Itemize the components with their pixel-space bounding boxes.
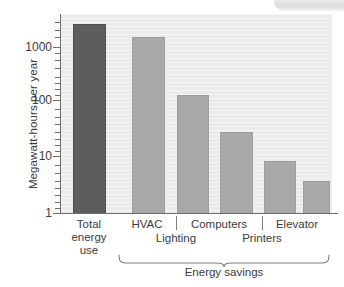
y-minor-tick	[55, 89, 61, 90]
y-minor-tick	[55, 132, 61, 133]
x-label-total-line2: energy	[58, 231, 120, 244]
x-label-total-energy-use: Total energy use	[58, 218, 120, 257]
y-tick-label-1000: 1000	[25, 40, 52, 54]
y-minor-tick	[55, 109, 61, 110]
y-tick-label-1: 1	[45, 206, 52, 220]
bar-computers	[220, 132, 253, 214]
y-minor-tick	[55, 195, 61, 196]
y-minor-tick	[55, 139, 61, 140]
x-label-total-line3: use	[58, 244, 120, 257]
y-minor-tick	[55, 83, 61, 84]
y-minor-tick	[55, 145, 61, 146]
x-axis-line	[56, 213, 338, 214]
y-tick-100	[53, 100, 61, 101]
y-minor-tick	[55, 188, 61, 189]
y-minor-tick	[55, 124, 61, 125]
bar-hvac	[132, 37, 165, 215]
bar-total-energy-use	[73, 24, 106, 214]
y-axis-title: Megawatt-hours per year	[27, 29, 39, 219]
y-minor-tick	[55, 202, 61, 203]
plot-area	[61, 14, 332, 214]
x-label-total-line1: Total	[58, 218, 120, 231]
y-minor-tick	[55, 60, 61, 61]
y-minor-tick	[55, 22, 61, 23]
y-minor-tick	[55, 68, 61, 69]
x-label-printers: Printers	[230, 232, 294, 245]
y-minor-tick	[55, 37, 61, 38]
x-label-lighting: Lighting	[147, 232, 205, 245]
y-minor-tick	[55, 117, 61, 118]
y-minor-tick	[55, 151, 61, 152]
y-minor-tick	[55, 30, 61, 31]
y-minor-tick	[55, 53, 61, 54]
y-tick-1000	[53, 47, 61, 48]
y-tick-10	[53, 156, 61, 157]
energy-bar-chart: Megawatt-hours per year 1000 1	[0, 0, 344, 287]
y-axis-line	[60, 14, 61, 214]
bar-elevator	[303, 181, 330, 214]
y-minor-tick	[55, 165, 61, 166]
y-minor-tick	[55, 77, 61, 78]
bar-lighting	[177, 95, 209, 214]
x-label-hvac: HVAC	[118, 218, 176, 231]
y-minor-tick	[55, 95, 61, 96]
y-minor-tick	[55, 173, 61, 174]
energy-savings-brace	[118, 253, 330, 266]
x-label-elevator: Elevator	[262, 218, 332, 231]
y-tick-label-100: 100	[32, 93, 52, 107]
y-tick-label-10: 10	[39, 149, 52, 163]
y-minor-tick	[55, 181, 61, 182]
bar-printers	[264, 161, 296, 214]
x-label-computers: Computers	[176, 218, 262, 231]
energy-savings-group-label: Energy savings	[118, 266, 330, 278]
y-minor-tick	[55, 208, 61, 209]
y-tick-1	[53, 213, 61, 214]
